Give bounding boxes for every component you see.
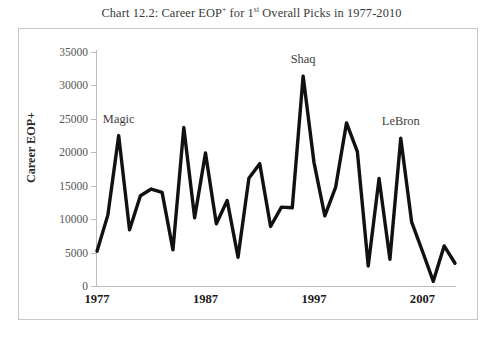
y-tick-mark <box>91 253 96 254</box>
y-tick-label: 25000 <box>34 113 88 125</box>
y-tick-label: 5000 <box>34 247 88 259</box>
x-tick-label: 1987 <box>193 292 218 307</box>
y-tick-mark <box>91 119 96 120</box>
y-tick-label: 15000 <box>34 180 88 192</box>
y-axis-title: Career EOP+ <box>24 93 39 203</box>
chart-title-mid: for 1 <box>226 6 253 20</box>
x-tick-label: 2007 <box>410 292 435 307</box>
y-tick-label: 0 <box>34 280 88 292</box>
chart-figure: Chart 12.2: Career EOP+ for 1st Overall … <box>0 0 503 339</box>
annotation-lebron: LeBron <box>382 114 420 129</box>
y-tick-label: 20000 <box>34 146 88 158</box>
y-tick-label: 10000 <box>34 213 88 225</box>
annotation-shaq: Shaq <box>291 52 316 67</box>
chart-title-suffix: Overall Picks in 1977-2010 <box>259 6 401 20</box>
x-tick-label: 1997 <box>301 292 326 307</box>
y-tick-mark <box>91 219 96 220</box>
y-tick-mark <box>91 152 96 153</box>
y-tick-label: 30000 <box>34 79 88 91</box>
y-tick-mark <box>91 286 96 287</box>
x-tick-label: 1977 <box>84 292 109 307</box>
y-tick-mark <box>91 85 96 86</box>
annotation-magic: Magic <box>103 112 135 127</box>
y-tick-mark <box>91 186 96 187</box>
chart-title-prefix: Chart 12.2: Career EOP <box>101 6 222 20</box>
y-tick-mark <box>91 52 96 53</box>
y-axis-line <box>96 50 97 287</box>
x-axis-line <box>96 286 456 287</box>
y-tick-label: 35000 <box>34 46 88 58</box>
y-axis-tick-labels: 05000100001500020000250003000035000 <box>32 0 88 339</box>
